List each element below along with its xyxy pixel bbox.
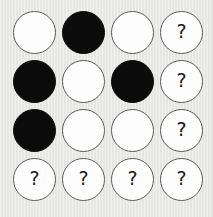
table-row: ? — [13, 60, 203, 103]
grid-cell-label: ? — [29, 169, 39, 188]
grid-cell-r2c1[interactable] — [13, 60, 56, 103]
grid-cell-r4c3[interactable]: ? — [111, 158, 154, 201]
grid-cell-r3c3[interactable] — [111, 109, 154, 152]
grid-cell-r4c4[interactable]: ? — [160, 158, 203, 201]
grid-cell-label: ? — [176, 169, 186, 188]
grid-cell-r3c1[interactable] — [13, 109, 56, 152]
grid-cell-r4c2[interactable]: ? — [62, 158, 105, 201]
grid-cell-r3c4[interactable]: ? — [160, 109, 203, 152]
grid-cell-r1c3[interactable] — [111, 11, 154, 54]
puzzle-board: ? ? — [0, 0, 213, 217]
table-row: ? ? ? ? — [13, 158, 203, 201]
table-row: ? — [13, 109, 203, 152]
grid-cell-r1c2[interactable] — [62, 11, 105, 54]
grid-cell-r2c4[interactable]: ? — [160, 60, 203, 103]
grid-cell-label: ? — [78, 169, 88, 188]
grid-cell-label: ? — [127, 169, 137, 188]
table-row: ? — [13, 11, 203, 54]
grid-cell-r3c2[interactable] — [62, 109, 105, 152]
grid-cell-r4c1[interactable]: ? — [13, 158, 56, 201]
grid-cell-label: ? — [176, 22, 186, 41]
grid-cell-label: ? — [176, 71, 186, 90]
grid-cell-label: ? — [176, 120, 186, 139]
grid-cell-r2c3[interactable] — [111, 60, 154, 103]
grid-cell-r1c4[interactable]: ? — [160, 11, 203, 54]
grid-cell-r1c1[interactable] — [13, 11, 56, 54]
token-grid: ? ? — [13, 11, 203, 201]
grid-cell-r2c2[interactable] — [62, 60, 105, 103]
